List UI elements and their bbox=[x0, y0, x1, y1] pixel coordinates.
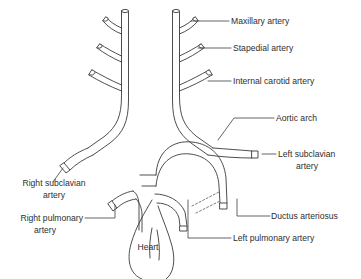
left-carotid-top-cap bbox=[122, 9, 129, 12]
label-ductus-arteriosus: Ductus arteriosus bbox=[271, 211, 338, 221]
pulmonary-trunk-group bbox=[155, 194, 187, 231]
left-branch-2-outer bbox=[100, 44, 122, 56]
right-pulmonary-root bbox=[133, 191, 139, 230]
left-subclavian-inner bbox=[208, 155, 252, 158]
maxillary-artery-cap bbox=[193, 17, 198, 21]
leader-ductus-arteriosus bbox=[237, 199, 270, 216]
internal-carotid-artery-outer bbox=[180, 70, 210, 85]
right-pulmonary-cap bbox=[108, 201, 117, 211]
right-subclavian-cap bbox=[60, 163, 70, 173]
right-pulmonary-outer bbox=[112, 191, 133, 201]
stapedial-artery-cap bbox=[199, 44, 204, 48]
label-left-subclavian-artery-line1: Left subclavian bbox=[278, 149, 336, 159]
label-left-subclavian-artery-line2: artery bbox=[296, 161, 319, 171]
label-maxillary-artery: Maxillary artery bbox=[231, 16, 290, 26]
leader-aortic-arch bbox=[218, 118, 274, 140]
right-subclavian-artery-group bbox=[60, 148, 93, 173]
heart-left-wall bbox=[129, 200, 152, 279]
left-pulmonary-cap bbox=[180, 226, 187, 231]
ductus-arteriosus-group bbox=[192, 192, 220, 213]
aortic-arch-group bbox=[140, 142, 227, 209]
stapedial-artery-outer bbox=[180, 44, 202, 56]
label-heart: Heart bbox=[137, 242, 159, 252]
leader-lines-group bbox=[53, 21, 276, 238]
internal-carotid-artery-cap bbox=[206, 70, 212, 75]
label-right-pulmonary-artery-line1: Right pulmonary bbox=[20, 213, 83, 223]
label-right-pulmonary-artery-line2: artery bbox=[34, 225, 57, 235]
heart-outline-group bbox=[129, 200, 174, 279]
anatomical-diagram: Maxillary artery Stapedial artery Intern… bbox=[0, 0, 361, 279]
label-right-subclavian-artery-line2: artery bbox=[43, 190, 66, 200]
label-left-pulmonary-artery: Left pulmonary artery bbox=[233, 233, 315, 243]
left-subclavian-cap bbox=[252, 151, 258, 158]
left-branch-3-cap bbox=[89, 70, 95, 75]
left-subclavian-outer bbox=[213, 148, 252, 151]
right-pulmonary-artery-group bbox=[108, 191, 142, 232]
right-subclavian-outer bbox=[64, 148, 88, 163]
left-pulmonary-inner bbox=[157, 203, 180, 226]
right-carotid-trunk-outer bbox=[173, 11, 209, 155]
left-carotid-trunk-inner bbox=[93, 11, 129, 155]
label-stapedial-artery: Stapedial artery bbox=[233, 43, 294, 53]
descending-aorta-cap bbox=[220, 203, 227, 209]
left-branch-2-cap bbox=[97, 44, 102, 48]
right-subclavian-inner bbox=[70, 155, 93, 170]
left-branch-3-outer bbox=[92, 70, 122, 85]
aortic-arch-figure: Maxillary artery Stapedial artery Intern… bbox=[0, 0, 361, 279]
label-internal-carotid-artery: Internal carotid artery bbox=[233, 76, 315, 86]
label-right-subclavian-artery-line1: Right subclavian bbox=[22, 178, 85, 188]
right-carotid-top-cap bbox=[173, 9, 180, 12]
left-branch-1-cap bbox=[103, 17, 108, 21]
label-aortic-arch: Aortic arch bbox=[276, 113, 317, 123]
heart-right-wall bbox=[158, 206, 174, 279]
ductus-arteriosus-dash-lower bbox=[196, 201, 220, 213]
right-carotid-trunk-group bbox=[173, 9, 214, 155]
left-carotid-trunk-group bbox=[88, 9, 129, 155]
right-pulmonary-inner bbox=[117, 199, 136, 208]
